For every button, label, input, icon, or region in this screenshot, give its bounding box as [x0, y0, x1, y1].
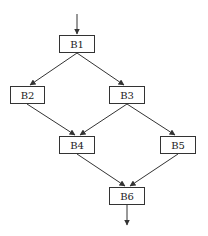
edges-layer	[0, 0, 208, 236]
edge-b4-b6	[77, 154, 125, 186]
edge-b3-b4	[80, 104, 127, 135]
node-b5-label: B5	[171, 140, 185, 151]
node-b2: B2	[10, 86, 45, 104]
node-b1-label: B1	[70, 39, 84, 50]
edge-b2-b4	[27, 104, 75, 135]
node-b2-label: B2	[21, 90, 35, 101]
edge-b1-b2	[30, 53, 77, 85]
node-b5: B5	[160, 136, 196, 154]
node-b6-label: B6	[120, 191, 134, 202]
node-b1: B1	[59, 35, 95, 53]
node-b3-label: B3	[120, 90, 134, 101]
edge-b3-b5	[127, 104, 175, 135]
node-b3: B3	[109, 86, 145, 104]
edge-b1-b3	[77, 53, 124, 85]
node-b4: B4	[59, 136, 95, 154]
flow-diagram: B1 B2 B3 B4 B5 B6	[0, 0, 208, 236]
node-b4-label: B4	[70, 140, 84, 151]
edge-b5-b6	[130, 154, 178, 186]
node-b6: B6	[109, 187, 145, 205]
